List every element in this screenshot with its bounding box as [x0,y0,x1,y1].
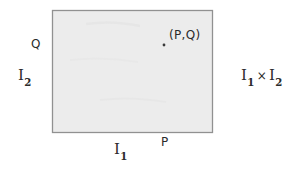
label-p: P [161,136,169,148]
label-product-left-subscript: 1 [247,76,254,88]
label-q: Q [31,38,41,50]
label-point-pq: (P,Q) [169,29,200,41]
multiplication-sign-icon: × [255,69,269,83]
figure-container: Q P (P,Q) I2 I1 I1×I2 [0,0,301,172]
label-interval-i2-subscript: 2 [24,76,31,88]
label-interval-i1: I1 [114,142,128,159]
diagram-canvas [0,0,301,172]
label-interval-i1-subscript: 1 [120,150,127,162]
label-product-right-subscript: 2 [275,76,282,88]
label-product-i1-times-i2: I1×I2 [241,68,283,85]
point-pq-marker [163,44,166,47]
label-interval-i2: I2 [18,68,32,85]
